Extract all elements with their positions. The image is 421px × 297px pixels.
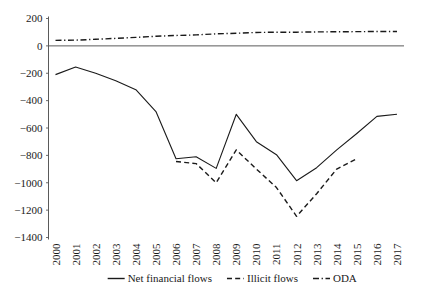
x-tick-label: 2011 xyxy=(270,244,282,266)
y-tick-label: −800 xyxy=(20,149,43,161)
y-tick-label: −1400 xyxy=(14,231,43,243)
x-tick-label: 2002 xyxy=(90,244,102,266)
legend-label: Illicit flows xyxy=(247,272,298,284)
chart-container: 2000−200−400−600−800−1000−1200−1400 2000… xyxy=(0,0,421,297)
y-tick-label: −1200 xyxy=(14,204,43,216)
x-tick-label: 2003 xyxy=(110,243,122,266)
x-tick-label: 2017 xyxy=(391,243,403,266)
x-tick-label: 2006 xyxy=(170,243,182,266)
legend-label: ODA xyxy=(333,272,357,284)
legend-item-illicit-flows: Illicit flows xyxy=(227,272,298,284)
x-tick-label: 2013 xyxy=(311,243,323,266)
series-line-oda xyxy=(56,32,398,41)
y-tick-label: −400 xyxy=(20,94,43,106)
x-tick-label: 2016 xyxy=(371,243,383,266)
y-tick-label: 200 xyxy=(26,12,43,24)
x-tick-label: 2014 xyxy=(331,243,343,266)
legend-item-net-financial-flows: Net financial flows xyxy=(108,272,212,284)
y-tick-label: 0 xyxy=(37,40,43,52)
legend-label: Net financial flows xyxy=(128,272,212,284)
x-tick-label: 2009 xyxy=(230,243,242,266)
x-tick-label: 2000 xyxy=(50,243,62,266)
chart-legend: Net financial flowsIllicit flowsODA xyxy=(108,272,357,284)
x-tick-label: 2001 xyxy=(70,244,82,266)
x-tick-label: 2015 xyxy=(351,243,363,266)
y-tick-label: −600 xyxy=(20,122,43,134)
y-tick-label: −200 xyxy=(20,67,43,79)
x-tick-label: 2004 xyxy=(130,243,142,266)
x-tick-label: 2005 xyxy=(150,243,162,266)
y-axis-tick-labels: 2000−200−400−600−800−1000−1200−1400 xyxy=(14,12,48,243)
series-lines xyxy=(56,32,398,217)
x-tick-label: 2010 xyxy=(250,243,262,266)
y-axis: 2000−200−400−600−800−1000−1200−1400 xyxy=(14,12,48,243)
y-tick-label: −1000 xyxy=(14,177,43,189)
x-axis-tick-labels: 2000200120022003200420052006200720082009… xyxy=(50,243,404,266)
line-chart: 2000−200−400−600−800−1000−1200−1400 2000… xyxy=(0,0,421,297)
x-tick-label: 2012 xyxy=(291,244,303,266)
x-tick-label: 2008 xyxy=(210,243,222,266)
x-tick-label: 2007 xyxy=(190,243,202,266)
legend-item-oda: ODA xyxy=(313,272,357,284)
series-line-illicit-flows xyxy=(176,150,357,216)
